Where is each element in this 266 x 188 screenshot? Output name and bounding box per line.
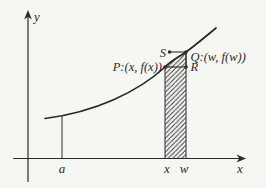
tick-label-a: a	[59, 161, 66, 176]
point-s-dot	[168, 50, 172, 54]
calculus-increment-diagram: y x a x w P:(x, f(x)) Q:(w, f(w)) R S	[0, 0, 266, 188]
tick-label-x: x	[163, 161, 170, 176]
shaded-region	[165, 52, 186, 159]
point-r-dot	[184, 65, 188, 69]
label-point-q: Q:(w, f(w))	[191, 50, 246, 64]
label-point-r: R	[190, 60, 199, 74]
label-point-s: S	[160, 46, 167, 60]
point-p-dot	[163, 65, 167, 69]
y-axis-label: y	[32, 9, 40, 24]
tick-label-w: w	[180, 161, 189, 176]
point-q-dot	[184, 50, 188, 54]
x-axis-label: x	[236, 161, 243, 176]
label-point-p: P:(x, f(x))	[112, 60, 162, 74]
figure-canvas: y x a x w P:(x, f(x)) Q:(w, f(w)) R S	[0, 0, 266, 188]
